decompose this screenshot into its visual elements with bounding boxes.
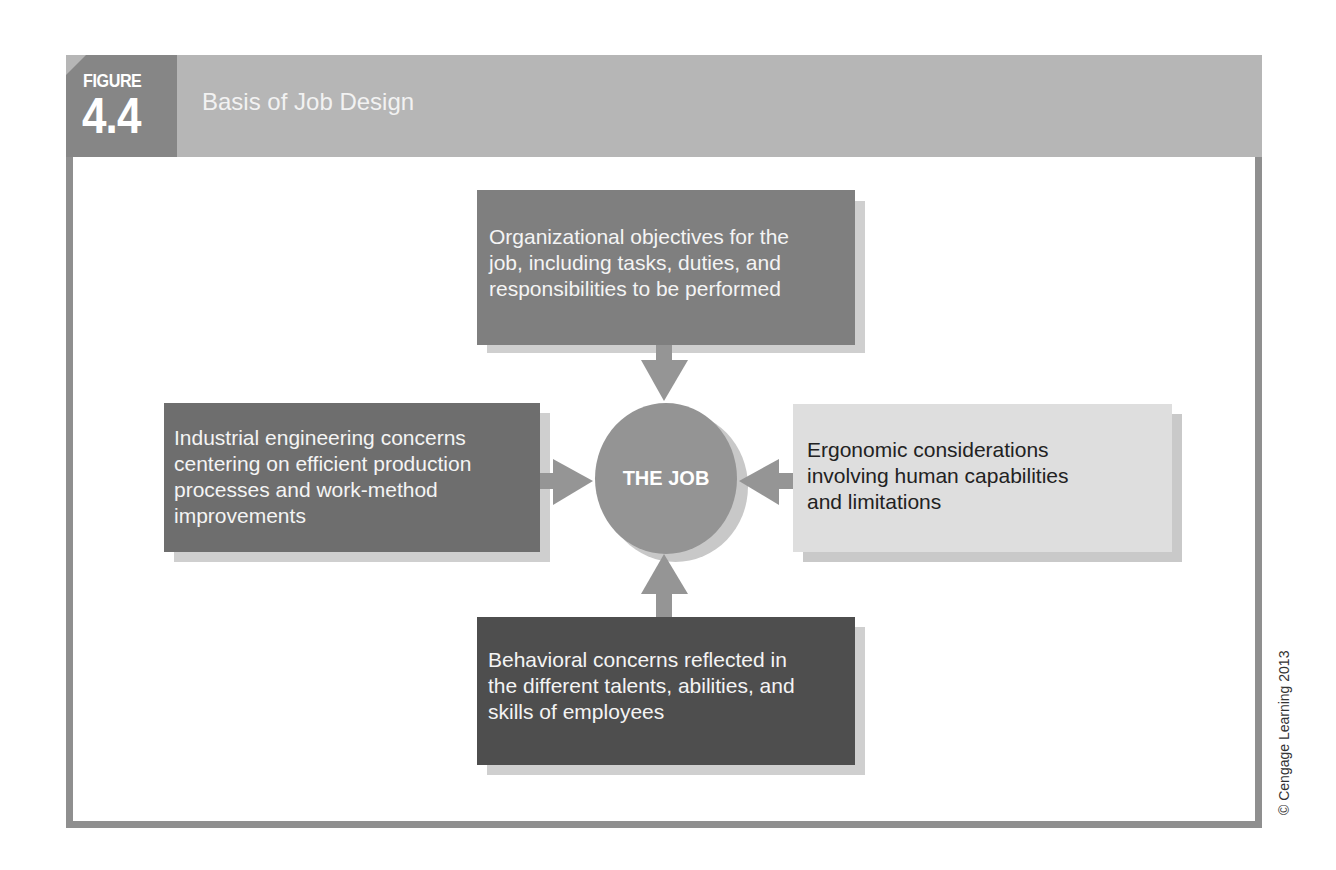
figure-number: 4.4 — [82, 88, 141, 144]
node-text-line: skills of employees — [488, 699, 845, 725]
center-node-the-job: THE JOB — [595, 403, 737, 554]
node-text-line: involving human capabilities — [807, 463, 1162, 489]
node-text-line: the different talents, abilities, and — [488, 673, 845, 699]
node-text-line: and limitations — [807, 489, 1162, 515]
node-text-line: Organizational objectives for the — [489, 224, 845, 250]
node-text-line: Behavioral concerns reflected in — [488, 647, 845, 673]
node-text-line: improvements — [174, 503, 530, 529]
node-ergonomic-considerations: Ergonomic considerations involving human… — [793, 404, 1172, 552]
node-text-line: processes and work-method — [174, 477, 530, 503]
node-text-line: Ergonomic considerations — [807, 437, 1162, 463]
copyright-notice: © Cengage Learning 2013 — [1276, 651, 1292, 815]
center-node-label: THE JOB — [623, 467, 710, 490]
node-organizational-objectives: Organizational objectives for the job, i… — [477, 190, 855, 345]
node-text-line: centering on efficient production — [174, 451, 530, 477]
node-text-line: job, including tasks, duties, and — [489, 250, 845, 276]
figure-title: Basis of Job Design — [202, 88, 414, 116]
node-industrial-engineering: Industrial engineering concerns centerin… — [164, 403, 540, 552]
node-behavioral-concerns: Behavioral concerns reflected in the dif… — [477, 617, 855, 765]
node-text-line: responsibilities to be performed — [489, 276, 845, 302]
node-text-line: Industrial engineering concerns — [174, 425, 530, 451]
